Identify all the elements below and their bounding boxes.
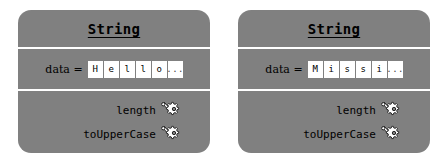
class-name-title: String xyxy=(88,21,140,37)
method-label-length: length xyxy=(336,104,376,117)
method-row: length xyxy=(116,98,182,122)
char-cell: l xyxy=(136,61,151,78)
char-cell-ellipsis: ... xyxy=(168,61,183,78)
string-object-card-1: String data = H e l l o ... length xyxy=(18,10,210,153)
char-cell: i xyxy=(324,61,339,78)
char-cell-ellipsis: ... xyxy=(388,61,403,78)
card-methods-band: length toUpperCase xyxy=(18,91,210,153)
char-array-cells: H e l l o ... xyxy=(88,61,183,78)
class-name-title: String xyxy=(308,21,360,37)
field-label-data: data = xyxy=(265,63,302,76)
method-label-length: length xyxy=(116,104,156,117)
card-title-band: String xyxy=(18,10,210,47)
method-row: length xyxy=(336,98,402,122)
char-cell: s xyxy=(356,61,371,78)
diagram-canvas: String data = H e l l o ... length xyxy=(0,0,448,164)
card-title-band: String xyxy=(238,10,430,47)
char-cell: o xyxy=(152,61,167,78)
char-cell: H xyxy=(88,61,103,78)
card-methods-band: length toUpperCase xyxy=(238,91,430,153)
char-cell: l xyxy=(120,61,135,78)
method-label-touppercase: toUpperCase xyxy=(303,128,376,141)
char-cell: i xyxy=(372,61,387,78)
char-cell: e xyxy=(104,61,119,78)
field-label-data: data = xyxy=(45,63,82,76)
method-label-touppercase: toUpperCase xyxy=(83,128,156,141)
card-field-band: data = M i s s i ... xyxy=(238,49,430,89)
method-row: toUpperCase xyxy=(303,122,402,146)
method-row: toUpperCase xyxy=(83,122,182,146)
gear-icon xyxy=(380,101,402,119)
char-array-cells: M i s s i ... xyxy=(308,61,403,78)
string-object-card-2: String data = M i s s i ... length xyxy=(238,10,430,153)
gear-icon xyxy=(160,101,182,119)
card-field-band: data = H e l l o ... xyxy=(18,49,210,89)
char-cell: M xyxy=(308,61,323,78)
gear-icon xyxy=(380,125,402,143)
gear-icon xyxy=(160,125,182,143)
char-cell: s xyxy=(340,61,355,78)
